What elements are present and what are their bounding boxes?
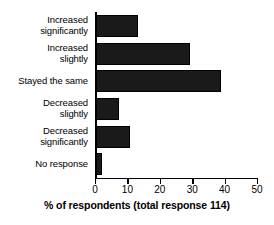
x-axis-title: % of respondents (total response 114) [0, 199, 274, 211]
x-tick [225, 179, 226, 184]
bar-chart: IncreasedsignificantlyIncreasedslightlyS… [0, 0, 274, 225]
category-label: Increasedslightly [0, 43, 88, 64]
bar [96, 98, 119, 120]
plot-area [96, 12, 258, 178]
x-tick [257, 179, 258, 184]
x-axis-line [95, 178, 258, 180]
category-label-line: Decreased [0, 126, 88, 137]
category-label-line: No response [0, 159, 88, 170]
category-label: No response [0, 159, 88, 170]
x-tick [192, 179, 193, 184]
x-tick-label: 40 [210, 184, 240, 195]
category-label-line: slightly [0, 109, 88, 120]
x-tick-label: 10 [112, 184, 142, 195]
category-label: Stayed the same [0, 76, 88, 87]
x-tick-label: 50 [242, 184, 272, 195]
category-label-line: Stayed the same [0, 76, 88, 87]
category-label: Decreasedsignificantly [0, 126, 88, 147]
bar [96, 15, 138, 37]
bar [96, 153, 102, 175]
category-label-line: slightly [0, 54, 88, 65]
x-tick [160, 179, 161, 184]
category-label-line: Increased [0, 43, 88, 54]
bar [96, 126, 130, 148]
category-label: Decreasedslightly [0, 98, 88, 119]
x-tick-label: 20 [145, 184, 175, 195]
x-tick [95, 179, 96, 184]
bar [96, 70, 221, 92]
y-axis-line [95, 12, 97, 179]
x-tick-label: 30 [177, 184, 207, 195]
category-label-line: significantly [0, 26, 88, 37]
x-tick-label: 0 [80, 184, 110, 195]
x-tick [127, 179, 128, 184]
category-label: Increasedsignificantly [0, 15, 88, 36]
category-axis-labels: IncreasedsignificantlyIncreasedslightlyS… [0, 12, 92, 178]
bar [96, 43, 190, 65]
category-label-line: significantly [0, 137, 88, 148]
